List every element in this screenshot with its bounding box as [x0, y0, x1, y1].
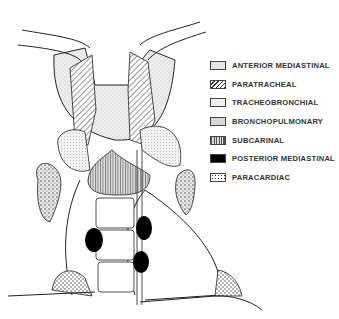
swatch-vertical-lines [210, 136, 226, 145]
swatch-solid-black [210, 154, 226, 163]
swatch-fine-stipple [210, 61, 226, 70]
legend: ANTERIOR MEDIASTINAL PARATRACHEAL TRACHE… [210, 56, 335, 187]
legend-item: POSTERIOR MEDIASTINAL [210, 149, 335, 168]
legend-label: BRONCHOPULMONARY [232, 117, 323, 126]
legend-item: PARACARDIAC [210, 168, 335, 187]
swatch-light-stipple [210, 98, 226, 107]
legend-label: ANTERIOR MEDIASTINAL [232, 61, 330, 70]
legend-item: TRACHEOBRONCHIAL [210, 93, 335, 112]
legend-label: SUBCARINAL [232, 136, 284, 145]
region-subcarinal [88, 150, 150, 195]
swatch-diagonal-hatch [210, 80, 226, 89]
legend-item: ANTERIOR MEDIASTINAL [210, 56, 335, 75]
legend-item: SUBCARINAL [210, 131, 335, 150]
swatch-dots [210, 173, 226, 182]
region-tracheobronchial-right [58, 130, 90, 172]
swatch-coarse-stipple [210, 117, 226, 126]
legend-label: TRACHEOBRONCHIAL [232, 98, 318, 107]
region-tracheobronchial-left [140, 126, 181, 166]
region-posterior-mediastinal [85, 228, 103, 252]
legend-label: PARACARDIAC [232, 173, 290, 182]
legend-label: PARATRACHEAL [232, 80, 297, 89]
legend-item: PARATRACHEAL [210, 75, 335, 94]
region-bronchopulmonary-left [176, 170, 196, 215]
legend-label: POSTERIOR MEDIASTINAL [232, 154, 335, 163]
legend-item: BRONCHOPULMONARY [210, 112, 335, 131]
region-paracardiac-left [215, 270, 242, 296]
region-bronchopulmonary-right [36, 163, 60, 222]
